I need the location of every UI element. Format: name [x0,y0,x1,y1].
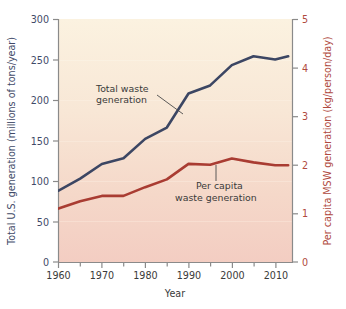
left-tick-label-250: 250 [31,55,49,66]
right-tick-label-2: 2 [302,160,308,171]
right-tick-label-1: 1 [302,208,308,219]
annotation-total-waste-line1: Total waste [95,83,149,94]
bottom-tick-label-1960: 1960 [46,270,70,281]
right-tick-label-4: 4 [302,63,308,74]
bottom-tick-label-1970: 1970 [90,270,114,281]
left-tick-label-0: 0 [43,257,49,268]
annotation-per-capita-line1: Per capita [196,180,243,191]
left-tick-label-200: 200 [31,95,49,106]
chart-figure: 300 250 200 150 100 50 0 Total U.S. gene… [0,0,346,309]
bottom-axis-ticks [59,263,276,268]
bottom-axis-title: Year [164,288,185,299]
left-axis-title: Total U.S. generation (millions of tons/… [6,37,17,246]
right-axis-title: Per capita MSW generation (kg/person/day… [322,36,333,245]
plot-background [58,19,293,262]
right-axis-ticks [293,20,298,263]
annotation-total-waste-line2: generation [96,94,147,105]
left-axis: 300 250 200 150 100 50 0 Total U.S. gene… [6,14,59,268]
right-axis: 5 4 3 2 1 0 Per capita MSW generation (k… [293,14,334,268]
left-tick-label-100: 100 [31,176,49,187]
bottom-tick-label-1980: 1980 [133,270,157,281]
bottom-tick-label-1990: 1990 [177,270,201,281]
bottom-axis: 1960 1970 1980 1990 2000 2010 Year [46,263,293,300]
left-tick-label-300: 300 [31,14,49,25]
left-axis-ticks [53,20,58,263]
annotation-per-capita-line2: waste generation [175,192,257,203]
bottom-tick-label-2000: 2000 [220,270,244,281]
waste-generation-line-chart: 300 250 200 150 100 50 0 Total U.S. gene… [0,0,346,309]
left-tick-label-150: 150 [31,136,49,147]
left-tick-label-50: 50 [37,217,49,228]
right-tick-label-0: 0 [302,257,308,268]
right-tick-label-3: 3 [302,111,308,122]
right-tick-label-5: 5 [302,14,308,25]
bottom-tick-label-2010: 2010 [264,270,288,281]
